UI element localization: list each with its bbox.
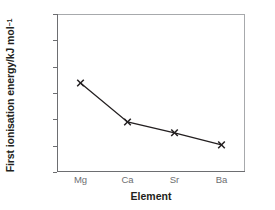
x-tick-label: Ca xyxy=(108,175,148,185)
y-tick-mark xyxy=(53,172,57,173)
y-tick-mark xyxy=(53,119,57,120)
x-axis-title: Element xyxy=(57,190,245,202)
x-axis-line xyxy=(57,171,245,172)
y-tick-mark xyxy=(53,146,57,147)
plot-area-frame xyxy=(57,14,245,172)
chart-container: First ionisation energy/kJ mol−1 1000900… xyxy=(0,0,275,210)
y-axis-title: First ionisation energy/kJ mol−1 xyxy=(2,8,18,183)
x-tick-label: Ba xyxy=(202,175,242,185)
x-tick-label: Mg xyxy=(61,175,101,185)
y-tick-mark xyxy=(53,93,57,94)
y-axis-line xyxy=(57,14,58,172)
y-tick-mark xyxy=(53,67,57,68)
x-tick-label: Sr xyxy=(155,175,195,185)
y-tick-mark xyxy=(53,14,57,15)
y-axis-title-text: First ionisation energy/kJ mol xyxy=(4,27,16,173)
y-tick-mark xyxy=(53,40,57,41)
